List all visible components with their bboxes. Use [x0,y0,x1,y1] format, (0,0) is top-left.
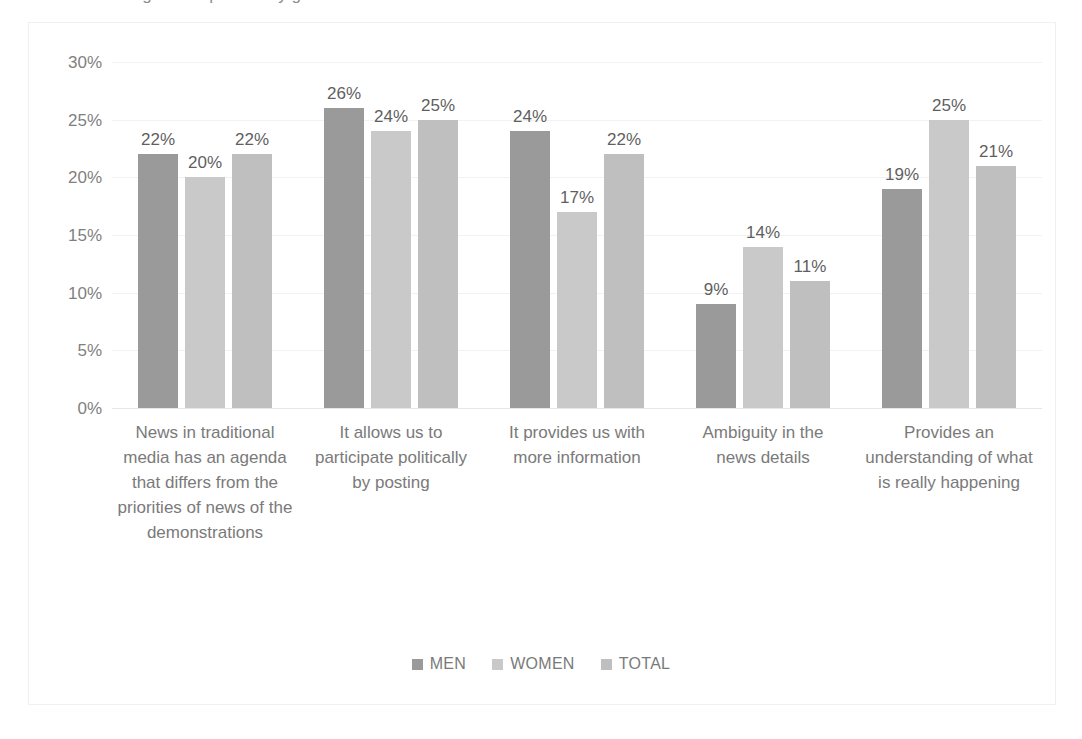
x-axis-category-label: It allows us to participate politically … [311,420,471,495]
y-axis-tick-label: 10% [32,284,102,301]
bar-total[interactable]: 22% [604,154,644,408]
x-axis-line [112,408,1042,409]
bar-value-label: 26% [327,85,361,102]
y-axis-tick-label: 30% [32,54,102,71]
bar-value-label: 25% [932,97,966,114]
x-axis-category-label: It provides us with more information [495,420,660,470]
legend-swatch-icon [492,659,503,670]
legend-swatch-icon [412,659,423,670]
bar-men[interactable]: 9% [696,304,736,408]
bar-group: 24%17%22% [510,62,644,408]
bar-value-label: 24% [374,108,408,125]
bar-total[interactable]: 22% [232,154,272,408]
bar-women[interactable]: 20% [185,177,225,408]
bar-men[interactable]: 26% [324,108,364,408]
bar-chart: 0%5%10%15%20%25%30% 22%20%22%26%24%25%24… [0,0,1082,739]
bar-women[interactable]: 24% [371,131,411,408]
bar-total[interactable]: 25% [418,120,458,408]
legend-item-men[interactable]: MEN [412,655,466,673]
y-axis-tick-label: 20% [32,169,102,186]
bar-men[interactable]: 22% [138,154,178,408]
chart-legend: MENWOMENTOTAL [0,655,1082,673]
x-axis-category-label: News in traditional media has an agenda … [116,420,294,545]
bar-value-label: 17% [560,189,594,206]
y-axis: 0%5%10%15%20%25%30% [32,0,102,739]
bar-group: 9%14%11% [696,62,830,408]
bar-women[interactable]: 17% [557,212,597,408]
bar-value-label: 20% [188,154,222,171]
x-axis-category-label: Provides an understanding of what is rea… [862,420,1037,495]
bar-value-label: 22% [607,131,641,148]
legend-item-women[interactable]: WOMEN [492,655,575,673]
bar-value-label: 24% [513,108,547,125]
legend-label: MEN [430,655,466,673]
bar-value-label: 14% [746,224,780,241]
legend-label: WOMEN [510,655,575,673]
x-axis-category-labels: News in traditional media has an agenda … [112,420,1042,635]
bar-value-label: 21% [979,143,1013,160]
y-axis-tick-label: 15% [32,227,102,244]
bar-men[interactable]: 19% [882,189,922,408]
bar-total[interactable]: 11% [790,281,830,408]
legend-item-total[interactable]: TOTAL [601,655,671,673]
y-axis-tick-label: 0% [32,400,102,417]
bar-men[interactable]: 24% [510,131,550,408]
bar-women[interactable]: 25% [929,120,969,408]
legend-label: TOTAL [619,655,671,673]
bar-value-label: 9% [704,281,729,298]
bar-total[interactable]: 21% [976,166,1016,408]
bar-group: 22%20%22% [138,62,272,408]
y-axis-tick-label: 25% [32,111,102,128]
bar-value-label: 25% [421,97,455,114]
y-axis-tick-label: 5% [32,342,102,359]
bar-value-label: 11% [794,258,827,275]
bar-value-label: 19% [885,166,919,183]
legend-swatch-icon [601,659,612,670]
bar-women[interactable]: 14% [743,247,783,408]
x-axis-category-label: Ambiguity in the news details [681,420,846,470]
bar-value-label: 22% [235,131,269,148]
bar-value-label: 22% [141,131,175,148]
plot-area: 22%20%22%26%24%25%24%17%22%9%14%11%19%25… [112,62,1042,408]
bar-group: 26%24%25% [324,62,458,408]
bar-group: 19%25%21% [882,62,1016,408]
